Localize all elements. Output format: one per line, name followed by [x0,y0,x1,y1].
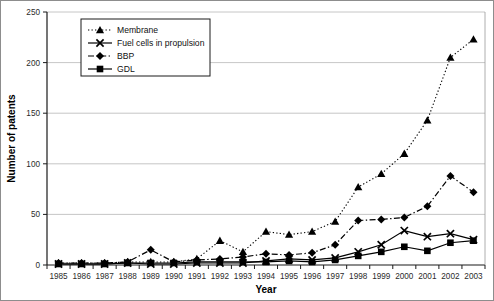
y-axis-ticks: 050100150200250 [26,8,47,270]
legend-label-bbp: BBP [117,51,134,61]
x-tick-label: 2000 [395,272,414,281]
marker-triangle [262,228,270,235]
marker-square [240,259,247,266]
y-axis-title: Number of patents [6,94,17,183]
marker-triangle [400,150,408,157]
x-tick-label: 1992 [211,272,230,281]
x-axis-ticks: 1985198619871988198919901991199219931994… [47,265,485,281]
x-tick-label: 1989 [142,272,161,281]
y-tick-label: 100 [26,160,40,169]
marker-triangle [331,217,339,224]
marker-triangle [216,237,224,244]
marker-triangle [423,116,431,123]
marker-square [124,260,131,267]
x-axis-title: Year [255,284,276,295]
x-tick-label: 1996 [303,272,322,281]
marker-square [217,259,224,266]
y-tick-label: 50 [31,210,41,219]
x-tick-label: 2003 [464,272,483,281]
marker-square [101,261,108,268]
patents-line-chart: 0501001502002501985198619871988198919901… [1,1,494,301]
x-tick-label: 1998 [349,272,368,281]
marker-square [55,261,62,268]
x-tick-label: 1991 [188,272,207,281]
marker-triangle [285,231,293,238]
marker-diamond [308,249,316,257]
x-tick-label: 1986 [72,272,91,281]
legend-label-gdl: GDL [117,64,135,74]
legend: MembraneFuel cells in propulsionBBPGDL [81,19,210,76]
marker-square [286,258,293,265]
x-tick-label: 1985 [49,272,68,281]
marker-diamond [469,188,477,196]
marker-square [194,259,201,266]
chart-figure: 0501001502002501985198619871988198919901… [0,0,494,301]
marker-square [97,66,104,73]
marker-triangle [354,183,362,190]
x-tick-label: 1993 [234,272,253,281]
y-tick-label: 150 [26,109,40,118]
marker-square [147,260,154,267]
marker-diamond [147,246,155,254]
x-tick-label: 2001 [418,272,437,281]
x-tick-label: 1997 [326,272,345,281]
legend-label-membrane: Membrane [117,25,158,35]
marker-diamond [377,215,385,223]
marker-square [309,259,316,266]
marker-triangle [308,228,316,235]
marker-square [263,259,270,266]
marker-square [332,257,339,264]
marker-square [424,248,431,255]
legend-label-fuel-cells-in-propulsion: Fuel cells in propulsion [117,38,205,48]
marker-triangle [469,35,477,42]
marker-square [401,243,408,250]
marker-square [378,249,385,256]
y-tick-label: 200 [26,59,40,68]
series-bbp [55,172,478,267]
x-tick-label: 2002 [441,272,460,281]
marker-x [378,241,385,248]
marker-square [78,261,85,268]
marker-x [401,227,408,234]
marker-square [170,260,177,267]
marker-square [447,239,454,246]
x-tick-label: 1994 [257,272,276,281]
x-tick-label: 1987 [96,272,115,281]
marker-diamond [331,241,339,249]
marker-square [355,253,362,260]
y-tick-label: 250 [26,8,40,17]
marker-diamond [262,250,270,258]
marker-square [470,237,477,244]
y-tick-label: 0 [35,261,40,270]
x-tick-label: 1999 [372,272,391,281]
x-tick-label: 1995 [280,272,299,281]
x-tick-label: 1988 [119,272,138,281]
x-tick-label: 1990 [165,272,184,281]
marker-triangle [446,53,454,60]
